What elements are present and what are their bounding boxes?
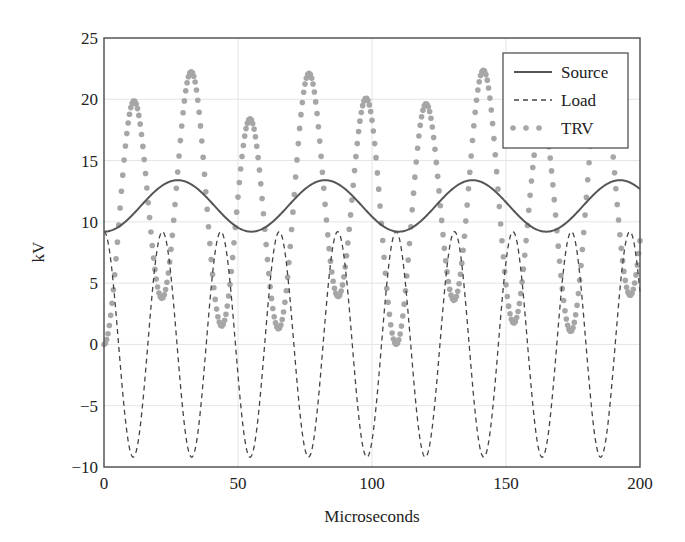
trv-marker <box>580 247 586 253</box>
trv-marker <box>415 145 421 151</box>
trv-marker <box>300 100 306 106</box>
trv-marker <box>199 138 205 144</box>
trv-marker <box>409 207 415 213</box>
trv-marker <box>470 138 476 144</box>
trv-marker <box>396 337 402 343</box>
trv-marker <box>270 306 276 312</box>
trv-marker <box>108 313 114 319</box>
trv-marker <box>168 247 174 253</box>
trv-marker <box>400 313 406 319</box>
trv-marker <box>624 285 630 291</box>
trv-marker <box>356 129 362 135</box>
y-tick-label: 20 <box>81 90 98 109</box>
trv-marker <box>282 300 288 306</box>
trv-marker <box>162 292 168 298</box>
trv-marker <box>338 288 344 294</box>
trv-marker <box>367 102 373 108</box>
trv-marker <box>399 323 405 329</box>
trv-marker <box>294 157 300 163</box>
trv-marker <box>208 257 214 263</box>
trv-marker <box>298 112 304 118</box>
trv-marker <box>559 286 565 292</box>
trv-marker <box>514 315 520 321</box>
trv-marker <box>317 138 323 144</box>
y-tick-label: −5 <box>80 397 98 416</box>
trv-marker <box>614 202 620 208</box>
y-axis-ticks: −10−50510152025 <box>71 29 98 477</box>
trv-marker <box>124 131 130 137</box>
trv-marker <box>175 169 181 175</box>
trv-marker <box>523 238 529 244</box>
trv-marker <box>326 246 332 252</box>
trv-marker <box>462 233 468 239</box>
trv-marker <box>147 215 153 221</box>
trv-marker <box>329 269 335 275</box>
trv-marker <box>127 111 133 117</box>
trv-marker <box>125 120 131 126</box>
trv-marker <box>387 312 393 318</box>
trv-marker <box>574 302 580 308</box>
trv-marker <box>223 311 229 317</box>
trv-marker <box>235 194 241 200</box>
trv-marker <box>117 205 123 211</box>
legend-trv-marker <box>523 125 529 131</box>
trv-marker <box>139 132 145 138</box>
trv-marker <box>612 170 618 176</box>
trv-marker <box>440 232 446 238</box>
trv-marker <box>179 123 185 129</box>
trv-marker <box>243 126 249 132</box>
trv-marker <box>135 106 141 112</box>
trv-marker <box>140 144 146 150</box>
x-tick-label: 100 <box>359 474 385 493</box>
trv-marker <box>530 165 536 171</box>
trv-marker <box>501 254 507 260</box>
trv-marker <box>202 171 208 177</box>
trv-marker <box>251 126 257 132</box>
trv-marker <box>109 301 115 307</box>
trv-marker <box>389 330 395 336</box>
trv-marker <box>403 288 409 294</box>
trv-marker <box>491 136 497 142</box>
trv-marker <box>170 233 176 239</box>
trv-marker <box>354 141 360 147</box>
trv-marker <box>231 240 237 246</box>
trv-marker <box>610 154 616 160</box>
trv-marker <box>312 89 318 95</box>
trv-marker <box>411 190 417 196</box>
trv-marker <box>617 232 623 238</box>
trv-marker <box>483 72 489 78</box>
trv-marker <box>527 193 533 199</box>
trv-marker <box>200 154 206 160</box>
trv-marker <box>576 291 582 297</box>
trv-marker <box>346 227 352 233</box>
trv-marker <box>505 294 511 300</box>
trv-marker <box>115 239 121 245</box>
trv-marker <box>401 301 407 307</box>
trv-marker <box>487 95 493 101</box>
trv-marker <box>261 211 267 217</box>
trv-marker <box>230 255 236 261</box>
trv-marker <box>332 286 338 292</box>
trv-marker <box>353 154 359 160</box>
trv-marker <box>136 113 142 119</box>
trv-marker <box>120 172 126 178</box>
trv-marker <box>254 143 260 149</box>
trv-marker <box>564 316 570 322</box>
trv-marker <box>281 309 287 315</box>
y-tick-label: 15 <box>81 152 98 171</box>
trv-marker <box>237 180 243 186</box>
trv-marker <box>381 254 387 260</box>
trv-marker <box>498 221 504 227</box>
trv-marker <box>412 174 418 180</box>
trv-marker <box>427 109 433 115</box>
trv-marker <box>330 278 336 284</box>
trv-marker <box>119 188 125 194</box>
trv-marker <box>373 155 379 161</box>
trv-marker <box>133 101 139 107</box>
trv-marker <box>425 104 431 110</box>
trv-marker <box>471 123 477 129</box>
trv-marker <box>372 141 378 147</box>
legend-trv-marker <box>536 125 542 131</box>
trv-marker <box>515 309 521 315</box>
trv-marker <box>557 258 563 264</box>
